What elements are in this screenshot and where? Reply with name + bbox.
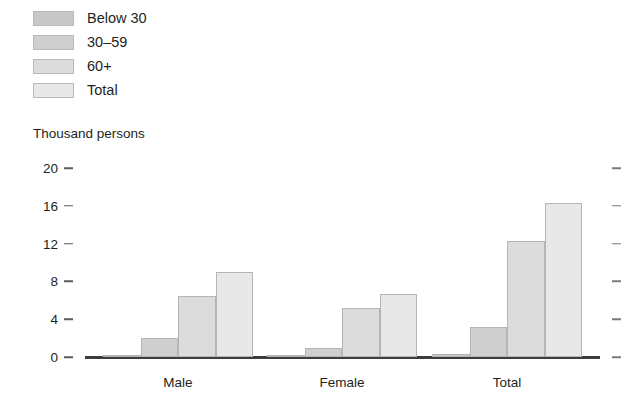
bar-total-30-59 [470,327,508,357]
y-tick-mark [64,318,73,320]
y-tick-mark [64,243,73,245]
bar-female-30-59 [305,348,343,357]
y-tick-label: 4 [18,312,58,327]
y-tick-mark-right [612,205,621,207]
y-tick-label: 16 [18,198,58,213]
y-tick-mark-right [612,281,621,283]
bar-total-below-30 [432,354,470,357]
y-tick-mark [64,205,73,207]
bar-female-below-30 [267,355,305,357]
bars-layer [0,0,637,357]
y-tick-label: 8 [18,274,58,289]
bar-female-total [380,294,418,357]
x-axis-label-total: Total [493,375,522,390]
chart-plot-area: 048121620 MaleFemaleTotal [0,0,637,402]
bar-total-60 [507,241,545,357]
bar-male-60 [178,296,216,357]
bar-male-30-59 [141,338,179,357]
y-tick-mark-right [612,243,621,245]
y-tick-label: 20 [18,161,58,176]
bar-total-total [545,203,583,357]
x-axis-label-male: Male [163,375,192,390]
bar-male-total [216,272,254,357]
bar-female-60 [342,308,380,357]
y-tick-mark [64,167,73,169]
y-tick-label: 0 [18,350,58,365]
y-tick-mark [64,356,73,358]
x-axis-label-female: Female [319,375,364,390]
bar-male-below-30 [103,355,141,357]
y-tick-mark-right [612,318,621,320]
y-tick-mark-right [612,167,621,169]
y-tick-mark-right [612,356,621,358]
y-tick-label: 12 [18,236,58,251]
y-tick-mark [64,281,73,283]
